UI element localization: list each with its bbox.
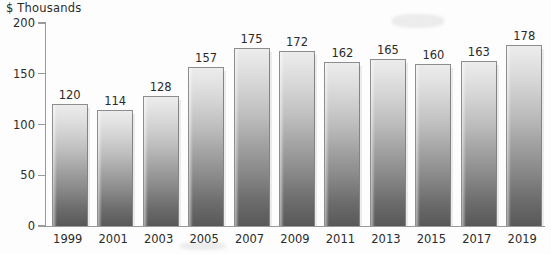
bar-value-label: 175 [226,32,278,46]
x-axis-label: 2005 [181,232,226,246]
y-axis-tick [38,22,46,23]
y-axis-tick-label-wrap: 150 [0,74,35,88]
scan-smudge [392,14,444,28]
y-axis-tick-label-wrap: 200 [0,23,35,37]
bar [52,104,88,226]
x-axis-label: 2003 [136,232,181,246]
y-axis-tick-label: 200 [0,16,35,30]
plot-area: 050100150200 120114128157175172162165160… [0,0,551,254]
y-axis-tick-label: 50 [0,168,35,182]
y-axis-tick [38,73,46,74]
x-axis-label: 2015 [409,232,454,246]
bar [370,59,406,226]
bar [415,64,451,226]
y-axis-tick-label: 0 [0,219,35,233]
bar-value-label: 163 [453,45,505,59]
bar-value-label: 114 [89,94,141,108]
bar [188,67,224,226]
bar [234,48,270,226]
y-axis-tick-label-wrap: 0 [0,226,35,240]
bar [461,61,497,226]
y-axis-tick [38,124,46,125]
x-axis-label: 2011 [318,232,363,246]
x-axis-label: 2019 [500,232,545,246]
x-axis-label: 2017 [454,232,499,246]
bar-value-label: 160 [407,48,459,62]
bar [279,51,315,226]
x-axis-label: 1999 [45,232,90,246]
bar-value-label: 178 [498,29,550,43]
bar-value-label: 172 [271,35,323,49]
y-axis-tick [38,175,46,176]
y-axis-tick [38,225,46,226]
x-axis-line [45,226,545,227]
y-axis-tick-label: 150 [0,67,35,81]
bar [324,62,360,226]
x-axis-label: 2013 [363,232,408,246]
bar-value-label: 165 [362,43,414,57]
x-axis-label: 2007 [227,232,272,246]
y-axis-tick-label-wrap: 100 [0,125,35,139]
bar-value-label: 162 [316,46,368,60]
y-axis-tick-label: 100 [0,118,35,132]
bar [506,45,542,226]
x-axis-label: 2009 [272,232,317,246]
bar [97,110,133,226]
bar-value-label: 128 [135,80,187,94]
bar [143,96,179,226]
bar-chart: $ Thousands 050100150200 120114128157175… [0,0,551,254]
bar-value-label: 120 [44,88,96,102]
bar-value-label: 157 [180,51,232,65]
y-axis-tick-label-wrap: 50 [0,175,35,189]
x-axis-label: 2001 [90,232,135,246]
